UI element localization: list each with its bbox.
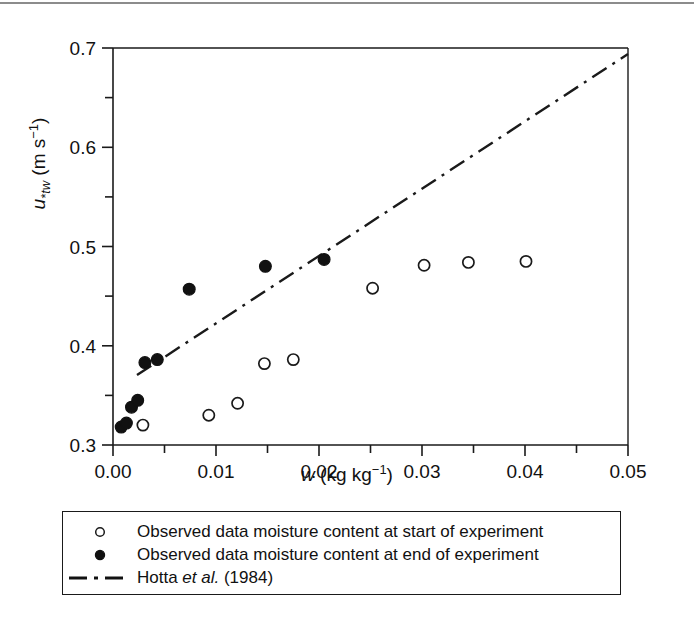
data-point-filled [151, 354, 163, 366]
y-tick-label: 0.6 [70, 137, 96, 158]
y-axis-major-ticks [102, 48, 113, 445]
figure-container: 0.3 0.4 0.5 0.6 0.7 0.00 0.01 0.02 0.03 … [0, 0, 694, 621]
y-axis-units-suffix: ) [29, 118, 50, 124]
legend-hotta-prefix: Hotta [137, 568, 182, 587]
legend-entry-open-circle: Observed data moisture content at start … [63, 521, 620, 543]
y-axis-subscript: *tw [39, 181, 54, 199]
legend-label-hotta: Hotta et al. (1984) [137, 568, 273, 588]
data-point-filled [121, 417, 133, 429]
y-axis-title-wrapper: u*tw (m s−1) [26, 64, 53, 264]
x-axis-symbol: w [301, 464, 315, 485]
data-point-open [367, 283, 378, 294]
plot-frame [113, 48, 628, 445]
legend-label-end: Observed data moisture content at end of… [137, 545, 539, 565]
legend-hotta-etal: et al. [182, 568, 219, 587]
filled-circle-icon [63, 547, 137, 563]
dash-dot-line [137, 54, 628, 375]
data-point-open [520, 256, 531, 267]
x-axis-units-exponent: −1 [372, 462, 387, 477]
y-axis-symbol: u [29, 199, 50, 210]
data-point-open [419, 260, 430, 271]
y-tick-label: 0.7 [70, 38, 96, 59]
data-point-open [137, 420, 148, 431]
legend-hotta-suffix: (1984) [219, 568, 273, 587]
data-point-open [463, 257, 474, 268]
x-axis-minor-ticks [165, 445, 577, 453]
legend-label-start: Observed data moisture content at start … [137, 522, 543, 542]
legend-entry-hotta-line: Hotta et al. (1984) [63, 567, 620, 589]
data-point-open [203, 410, 214, 421]
data-point-open [288, 354, 299, 365]
y-tick-label: 0.3 [70, 435, 96, 456]
dash-dot-line-icon [63, 571, 137, 585]
data-point-open [259, 358, 270, 369]
data-point-open [232, 398, 243, 409]
data-point-filled [132, 394, 144, 406]
y-tick-label: 0.4 [70, 336, 97, 357]
series-filled-circles [115, 254, 330, 434]
open-circle-icon [63, 524, 137, 540]
legend-entry-filled-circle: Observed data moisture content at end of… [63, 544, 620, 566]
y-axis-units-prefix: (m s [29, 139, 50, 181]
y-axis-title: u*tw (m s−1) [29, 118, 50, 210]
x-axis-title: w (kg kg−1) [0, 462, 694, 486]
plot-svg: 0.3 0.4 0.5 0.6 0.7 0.00 0.01 0.02 0.03 … [0, 0, 694, 500]
y-axis-tick-labels: 0.3 0.4 0.5 0.6 0.7 [70, 38, 97, 456]
y-tick-label: 0.5 [70, 237, 96, 258]
scatter-plot: 0.3 0.4 0.5 0.6 0.7 0.00 0.01 0.02 0.03 … [0, 0, 694, 500]
x-axis-units-suffix: ) [387, 464, 393, 485]
series-open-circles [137, 256, 531, 431]
data-point-filled [318, 254, 330, 266]
y-axis-units-exponent: −1 [26, 124, 41, 139]
x-axis-units-prefix: (kg kg [315, 464, 372, 485]
data-point-filled [139, 357, 151, 369]
data-point-filled [183, 283, 195, 295]
legend-box: Observed data moisture content at start … [62, 511, 621, 595]
series-hotta-line [137, 54, 628, 375]
data-point-filled [260, 260, 272, 272]
